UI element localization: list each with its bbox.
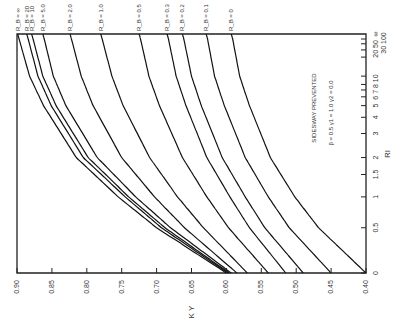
ky-tick-label: 0.40 xyxy=(362,280,369,294)
kfactor-chart: R_B = ∞R_B = 20R_B = 10R_B = 5.0R_B = 2.… xyxy=(0,0,419,327)
ky-axis-title: K Y xyxy=(187,305,196,318)
ri-tick-label: 1 xyxy=(372,195,379,199)
annotation-parameters: β = 0.5 γ1 = 1.0 γ2 = 0.0 xyxy=(328,80,334,146)
ri-tick-label: 3 xyxy=(372,131,379,135)
curve-label: R_B = 1.0 xyxy=(98,3,104,31)
curve-label: R_B = 0.2 xyxy=(179,3,185,31)
ky-axis: 0.900.850.800.750.700.650.600.550.500.45… xyxy=(13,268,369,294)
curve-label: R_B = 2.0 xyxy=(67,3,73,31)
curve-label: R_B = 0.5 xyxy=(136,3,142,31)
ri-tick-label: 20 50 xyxy=(372,40,379,58)
curve-rb-3 xyxy=(43,34,232,273)
curve-label: R_B = 10 xyxy=(29,5,35,31)
ky-tick-label: 0.90 xyxy=(13,280,20,294)
ky-tick-label: 0.65 xyxy=(188,280,195,294)
curve-label: R_B = 0.1 xyxy=(203,3,209,31)
ky-tick-label: 0.75 xyxy=(118,280,125,294)
curve-rb-6 xyxy=(139,34,268,273)
curve-label: R_B = ∞ xyxy=(15,8,21,31)
plot-border xyxy=(17,34,366,273)
ri-tick-label: 1.5 xyxy=(372,170,379,180)
ri-tick-label: 2 xyxy=(372,155,379,159)
curve-label: R_B = 0.3 xyxy=(164,3,170,31)
ky-tick-label: 0.55 xyxy=(257,280,264,294)
curve-rb-8 xyxy=(182,34,303,273)
ri-tick-label: 4 xyxy=(372,115,379,119)
ri-tick-label: ∞ xyxy=(372,32,379,37)
curve-rb-2 xyxy=(32,34,230,273)
curve-rb-7 xyxy=(167,34,286,273)
ri-axis-title: RI xyxy=(383,150,392,158)
annotation-sidesway: SIDESWAY PREVENTED xyxy=(311,73,317,143)
curve-series xyxy=(18,34,366,273)
curve-labels: R_B = ∞R_B = 20R_B = 10R_B = 5.0R_B = 2.… xyxy=(15,3,235,31)
curve-rb-1 xyxy=(27,34,228,273)
plot-frame xyxy=(17,34,366,273)
ky-tick-label: 0.45 xyxy=(327,280,334,294)
ri-tick-label: 0 xyxy=(372,271,379,275)
ky-tick-label: 0.60 xyxy=(222,280,229,294)
ky-tick-label: 0.80 xyxy=(83,280,90,294)
ri-tick-label: 30 100 xyxy=(380,32,387,54)
ri-tick-label: 0.5 xyxy=(372,223,379,233)
ky-tick-label: 0.70 xyxy=(153,280,160,294)
ri-tick-label: 6 7 8 10 xyxy=(372,74,379,99)
curve-rb-5 xyxy=(101,34,248,273)
ky-tick-label: 0.85 xyxy=(48,280,55,294)
ri-tick-label: 5 xyxy=(372,104,379,108)
curve-label: R_B = 0 xyxy=(228,8,234,31)
ky-tick-label: 0.50 xyxy=(292,280,299,294)
curve-label: R_B = 5.0 xyxy=(40,3,46,31)
